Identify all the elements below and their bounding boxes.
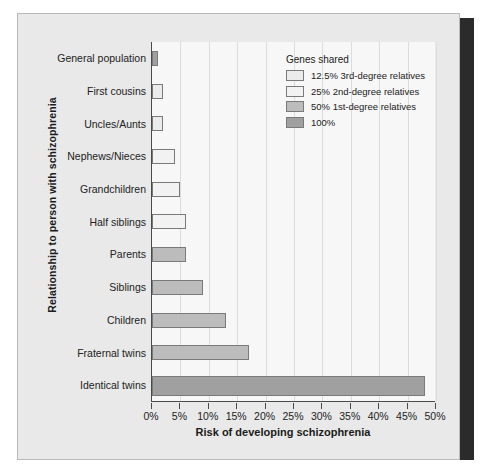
legend-item: 100% bbox=[286, 117, 456, 128]
x-axis-tick bbox=[350, 403, 351, 409]
x-axis-tick bbox=[208, 403, 209, 409]
bar-row: Children bbox=[152, 304, 435, 337]
y-axis-tick-label: Half siblings bbox=[89, 217, 146, 228]
x-axis-tick bbox=[435, 403, 436, 409]
chart-panel: Relationship to person with schizophreni… bbox=[17, 13, 460, 460]
bar bbox=[152, 247, 186, 262]
figure-container: Relationship to person with schizophreni… bbox=[0, 0, 483, 476]
x-axis-tick bbox=[378, 403, 379, 409]
y-axis-tick-label: Siblings bbox=[109, 282, 146, 293]
legend-swatch bbox=[286, 86, 304, 97]
legend-items: 12.5% 3rd-degree relatives25% 2nd-degree… bbox=[286, 70, 456, 128]
y-axis-tick-label: Uncles/Aunts bbox=[84, 119, 146, 130]
legend-label: 25% 2nd-degree relatives bbox=[311, 86, 419, 97]
legend-swatch bbox=[286, 101, 304, 112]
x-axis-title: Risk of developing schizophrenia bbox=[118, 426, 448, 438]
legend-title: Genes shared bbox=[286, 54, 456, 65]
legend-item: 25% 2nd-degree relatives bbox=[286, 86, 456, 97]
y-axis-tick-label: Nephews/Nieces bbox=[67, 151, 146, 162]
bar-row: Siblings bbox=[152, 271, 435, 304]
x-axis-tick bbox=[236, 403, 237, 409]
y-axis-tick-label: Parents bbox=[110, 249, 146, 260]
bar-row: Fraternal twins bbox=[152, 337, 435, 370]
bar-row: Identical twins bbox=[152, 369, 435, 402]
legend-label: 100% bbox=[311, 117, 335, 128]
legend-item: 50% 1st-degree relatives bbox=[286, 101, 456, 112]
x-axis-tick-label: 50% bbox=[418, 410, 452, 422]
bar bbox=[152, 51, 158, 66]
bar bbox=[152, 345, 249, 360]
bar bbox=[152, 280, 203, 295]
legend-item: 12.5% 3rd-degree relatives bbox=[286, 70, 456, 81]
bar bbox=[152, 214, 186, 229]
x-axis-tick bbox=[407, 403, 408, 409]
figure-drop-shadow bbox=[460, 18, 474, 460]
bar bbox=[152, 149, 175, 164]
legend-label: 50% 1st-degree relatives bbox=[311, 101, 416, 112]
x-axis-tick bbox=[179, 403, 180, 409]
bar bbox=[152, 182, 180, 197]
legend-label: 12.5% 3rd-degree relatives bbox=[311, 70, 425, 81]
bar bbox=[152, 116, 163, 131]
y-axis-tick-label: Children bbox=[107, 315, 146, 326]
x-axis-tick bbox=[321, 403, 322, 409]
x-axis-tick bbox=[265, 403, 266, 409]
x-axis-tick bbox=[151, 403, 152, 409]
bar-row: Grandchildren bbox=[152, 173, 435, 206]
legend-swatch bbox=[286, 70, 304, 81]
y-axis-title: Relationship to person with schizophreni… bbox=[46, 75, 58, 335]
bar-row: Nephews/Nieces bbox=[152, 140, 435, 173]
bar-row: Half siblings bbox=[152, 206, 435, 239]
bar bbox=[152, 376, 425, 396]
bar bbox=[152, 313, 226, 328]
y-axis-tick-label: First cousins bbox=[87, 86, 146, 97]
bar-row: Parents bbox=[152, 238, 435, 271]
y-axis-tick-label: Identical twins bbox=[80, 380, 146, 391]
legend: Genes shared 12.5% 3rd-degree relatives2… bbox=[286, 54, 456, 132]
bar bbox=[152, 84, 163, 99]
x-axis-tick bbox=[293, 403, 294, 409]
legend-swatch bbox=[286, 117, 304, 128]
y-axis-tick-label: Grandchildren bbox=[80, 184, 146, 195]
y-axis-tick-label: General population bbox=[57, 53, 146, 64]
y-axis-tick-label: Fraternal twins bbox=[77, 348, 146, 359]
